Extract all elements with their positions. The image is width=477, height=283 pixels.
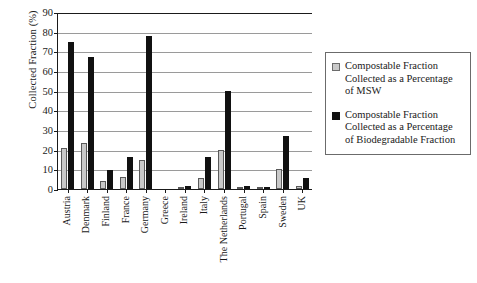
x-axis-label: Italy	[199, 196, 209, 214]
bar	[198, 178, 204, 189]
x-axis-label: UK	[297, 196, 307, 210]
bar	[185, 186, 191, 189]
y-tick-label: 60	[43, 67, 59, 78]
legend-item-msw: Compostable Fraction Collected as a Perc…	[332, 60, 464, 98]
x-label-cell: Greece	[155, 194, 175, 280]
bar-group	[234, 13, 254, 189]
bar	[257, 187, 263, 189]
x-tick-mark	[68, 189, 69, 193]
x-tick-mark	[263, 189, 264, 193]
y-tick-label: 70	[43, 47, 59, 58]
bar-group	[253, 13, 273, 189]
bar	[68, 42, 74, 190]
bar-group	[58, 13, 78, 189]
x-tick-mark	[126, 189, 127, 193]
x-tick-mark	[107, 189, 108, 193]
bar	[303, 178, 309, 189]
legend-label-biodegradable: Compostable Fraction Collected as a Perc…	[345, 109, 455, 147]
x-tick-mark	[165, 189, 166, 193]
y-tick-label: 50	[43, 86, 59, 97]
x-label-cell: Spain	[253, 194, 273, 280]
chart-legend: Compostable Fraction Collected as a Perc…	[325, 52, 471, 155]
x-tick-mark	[283, 189, 284, 193]
legend-label-biodegradable-line3: of Biodegradable Fraction	[345, 134, 455, 145]
bar	[225, 91, 231, 189]
x-label-cell: Portugal	[233, 194, 253, 280]
x-axis-label: Sweden	[278, 196, 288, 228]
x-label-cell: Denmark	[77, 194, 97, 280]
legend-swatch-biodegradable-icon	[332, 112, 340, 120]
x-label-cell: France	[116, 194, 136, 280]
x-axis-label: Portugal	[238, 196, 248, 230]
bar-group	[117, 13, 137, 189]
x-axis-label: Spain	[258, 196, 268, 219]
y-tick-label: 90	[43, 8, 59, 19]
x-tick-mark	[302, 189, 303, 193]
x-tick-mark	[244, 189, 245, 193]
bar-chart: Collected Fraction (%) 01020304050607080…	[0, 0, 477, 283]
x-label-cell: UK	[292, 194, 312, 280]
x-label-cell: Finland	[96, 194, 116, 280]
plot-area: 0102030405060708090	[57, 13, 312, 190]
bar-group	[78, 13, 98, 189]
bar	[178, 187, 184, 189]
bar	[237, 187, 243, 189]
x-axis-label: The Netherlands	[219, 196, 229, 262]
x-axis-label: Greece	[160, 196, 170, 224]
bar	[100, 181, 106, 189]
bar	[88, 57, 94, 189]
x-tick-mark	[146, 189, 147, 193]
bar-group	[292, 13, 312, 189]
bar	[120, 177, 126, 189]
bar	[296, 186, 302, 189]
x-label-cell: Germany	[135, 194, 155, 280]
bar-group	[214, 13, 234, 189]
y-tick-label: 30	[43, 126, 59, 137]
x-label-cell: Sweden	[273, 194, 293, 280]
legend-swatch-msw-icon	[332, 63, 340, 71]
bar	[107, 170, 113, 189]
x-tick-mark	[204, 189, 205, 193]
bar	[218, 150, 224, 189]
x-axis-label: Germany	[140, 196, 150, 233]
bar-group	[97, 13, 117, 189]
bar-group	[195, 13, 215, 189]
bar-groups	[58, 13, 312, 189]
y-tick-label: 10	[43, 165, 59, 176]
bar	[61, 148, 67, 189]
bar	[127, 157, 133, 189]
legend-label-msw-line2: Collected as a Percentage	[345, 73, 453, 84]
x-label-cell: Austria	[57, 194, 77, 280]
bar-group	[156, 13, 176, 189]
y-tick-label: 80	[43, 27, 59, 38]
x-label-cell: The Netherlands	[214, 194, 234, 280]
y-tick-label: 20	[43, 145, 59, 156]
bar	[283, 136, 289, 189]
x-axis-labels: AustriaDenmarkFinlandFranceGermanyGreece…	[57, 194, 312, 280]
bar-group	[136, 13, 156, 189]
legend-label-biodegradable-line2: Collected as a Percentage	[345, 121, 453, 132]
legend-label-msw-line3: of MSW	[345, 85, 381, 96]
bar	[276, 169, 282, 189]
x-axis-label: Finland	[101, 196, 111, 227]
legend-item-biodegradable: Compostable Fraction Collected as a Perc…	[332, 109, 464, 147]
x-tick-mark	[185, 189, 186, 193]
x-label-cell: Ireland	[175, 194, 195, 280]
bar-group	[175, 13, 195, 189]
x-tick-mark	[87, 189, 88, 193]
x-label-cell: Italy	[194, 194, 214, 280]
y-axis-title: Collected Fraction (%)	[27, 0, 38, 150]
legend-label-msw-line1: Compostable Fraction	[345, 60, 438, 71]
bar	[146, 36, 152, 189]
bar	[205, 157, 211, 189]
legend-label-biodegradable-line1: Compostable Fraction	[345, 109, 438, 120]
legend-label-msw: Compostable Fraction Collected as a Perc…	[345, 60, 453, 98]
bar-group	[273, 13, 293, 189]
bar	[264, 187, 270, 189]
x-axis-label: Denmark	[81, 196, 91, 233]
x-axis-label: Austria	[62, 196, 72, 225]
x-axis-label: Ireland	[179, 196, 189, 224]
x-axis-label: France	[121, 196, 131, 223]
x-tick-mark	[224, 189, 225, 193]
bar	[81, 143, 87, 189]
